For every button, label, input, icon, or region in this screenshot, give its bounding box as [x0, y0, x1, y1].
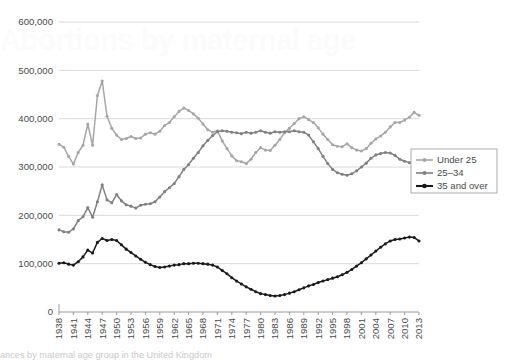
series-marker [134, 254, 137, 257]
x-axis-tick-label: 2004 [370, 317, 381, 339]
series-marker [341, 173, 344, 176]
x-axis-tick-label: 2007 [385, 318, 396, 339]
series-marker [283, 130, 286, 133]
series-marker [149, 263, 152, 266]
x-axis-tick-label: 1941 [68, 318, 79, 339]
series-marker [384, 131, 387, 134]
series-marker [379, 135, 382, 138]
series-marker [389, 125, 392, 128]
series-marker [115, 134, 118, 137]
series-marker [259, 292, 262, 295]
x-axis-tick-label: 1947 [97, 318, 108, 339]
series-marker [206, 139, 209, 142]
series-marker [192, 262, 195, 265]
series-marker [211, 131, 214, 134]
series-marker [245, 285, 248, 288]
series-marker [91, 144, 94, 147]
series-marker [336, 171, 339, 174]
series-marker [374, 153, 377, 156]
series-marker [374, 250, 377, 253]
series-marker [86, 122, 89, 125]
series-marker [177, 263, 180, 266]
series-marker [225, 147, 228, 150]
series-marker [211, 134, 214, 137]
series-marker [125, 248, 128, 251]
series-marker [317, 126, 320, 129]
series-marker [149, 131, 152, 134]
series-marker [101, 237, 104, 240]
series-marker [153, 133, 156, 136]
series-marker [77, 260, 80, 263]
series-marker [177, 175, 180, 178]
series-marker [321, 155, 324, 158]
series-marker [365, 162, 368, 165]
legend-item-label[interactable]: Under 25 [437, 154, 476, 165]
series-marker [413, 236, 416, 239]
series-marker [72, 264, 75, 267]
series-marker [67, 263, 70, 266]
series-line [59, 131, 419, 233]
series-marker [182, 262, 185, 265]
series-marker [153, 200, 156, 203]
series-marker [269, 132, 272, 135]
series-marker [336, 145, 339, 148]
series-marker [57, 143, 60, 146]
series-marker [254, 131, 257, 134]
series-marker [408, 161, 411, 164]
x-axis-tick-label: 2001 [356, 318, 367, 339]
series-marker [326, 138, 329, 141]
legend-item-label[interactable]: 25–34 [437, 167, 464, 178]
series-marker [312, 140, 315, 143]
y-axis-tick-label: 200,000 [18, 210, 53, 221]
series-marker [129, 205, 132, 208]
series-marker [120, 138, 123, 141]
series-marker [67, 155, 70, 158]
series-marker [101, 183, 104, 186]
series-marker [206, 263, 209, 266]
series-marker [374, 137, 377, 140]
series-marker [134, 207, 137, 210]
series-marker [350, 172, 353, 175]
series-marker [182, 106, 185, 109]
x-axis-tick-label: 1950 [111, 318, 122, 339]
series-marker [96, 241, 99, 244]
x-axis-tick-label: 1986 [284, 318, 295, 339]
series-marker [206, 128, 209, 131]
x-axis-tick-label: 1965 [183, 318, 194, 339]
series-marker [355, 265, 358, 268]
series-marker [110, 127, 113, 130]
legend-item-label[interactable]: 35 and over [437, 180, 488, 191]
series-marker [398, 158, 401, 161]
series-marker [273, 144, 276, 147]
series-marker [81, 255, 84, 258]
series-marker [91, 216, 94, 219]
chart-container: Abortions by maternal age 0100,000200,00… [0, 0, 505, 360]
line-chart: 0100,000200,000300,000400,000500,000600,… [0, 0, 505, 360]
y-axis-tick-label: 0 [48, 306, 53, 317]
series-marker [317, 147, 320, 150]
x-axis-tick-label: 1980 [255, 318, 266, 339]
series-marker [201, 262, 204, 265]
series-marker [173, 115, 176, 118]
series-marker [293, 290, 296, 293]
series-marker [235, 280, 238, 283]
series-marker [398, 121, 401, 124]
x-axis-tick-label: 1971 [212, 318, 223, 339]
series-marker [264, 293, 267, 296]
series-marker [163, 190, 166, 193]
series-marker [149, 202, 152, 205]
series-marker [134, 137, 137, 140]
series-marker [379, 152, 382, 155]
series-marker [293, 122, 296, 125]
series-marker [297, 288, 300, 291]
series-marker [235, 159, 238, 162]
series-marker [317, 281, 320, 284]
series-marker [192, 112, 195, 115]
series-marker [259, 129, 262, 132]
series-marker [302, 286, 305, 289]
series-marker [312, 283, 315, 286]
series-marker [105, 115, 108, 118]
series-marker [240, 160, 243, 163]
series-marker [158, 266, 161, 269]
series-marker [158, 195, 161, 198]
